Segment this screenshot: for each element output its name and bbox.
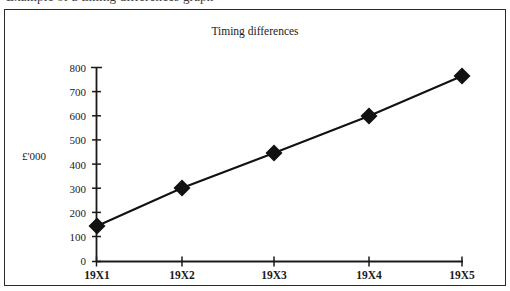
data-point-19x3[interactable] — [266, 145, 283, 162]
data-point-19x4[interactable] — [361, 108, 378, 125]
data-point-19x2[interactable] — [174, 180, 191, 197]
chart-page: Example of a timing differences graph Ti… — [0, 0, 510, 291]
data-point-19x1[interactable] — [89, 218, 106, 235]
data-point-19x5[interactable] — [454, 68, 471, 85]
data-markers — [89, 68, 471, 235]
chart-plot-area — [0, 0, 510, 291]
